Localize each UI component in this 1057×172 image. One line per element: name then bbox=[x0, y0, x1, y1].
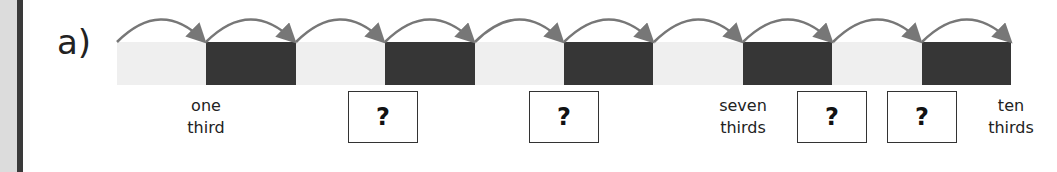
label-one-third: one third bbox=[176, 95, 236, 139]
jump-arrow-icon bbox=[833, 19, 919, 42]
jump-arrow-icon bbox=[296, 19, 382, 42]
answer-box-4[interactable]: ? bbox=[887, 91, 957, 143]
jump-arrow-icon bbox=[564, 19, 651, 42]
jump-arrow-icon bbox=[385, 19, 472, 42]
jump-arrow-icon bbox=[743, 19, 830, 42]
jump-arrow-icon bbox=[654, 19, 740, 42]
answer-box-3[interactable]: ? bbox=[797, 91, 867, 143]
answer-box-2[interactable]: ? bbox=[529, 91, 599, 143]
jump-arrow-icon bbox=[475, 19, 561, 42]
jump-arrow-icon bbox=[922, 19, 1009, 42]
jump-arrows bbox=[0, 0, 1057, 60]
jump-arrow-icon bbox=[117, 19, 203, 42]
label-ten-thirds: ten thirds bbox=[978, 95, 1044, 139]
answer-box-1[interactable]: ? bbox=[348, 91, 418, 143]
jump-arrow-icon bbox=[206, 19, 293, 42]
label-seven-thirds: seven thirds bbox=[708, 95, 778, 139]
